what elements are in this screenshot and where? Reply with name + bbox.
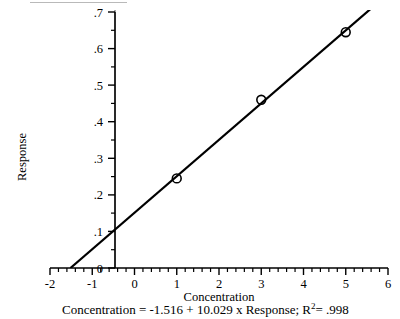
y-tick-label-3: .3	[94, 152, 103, 166]
y-tick-label-2: .2	[94, 188, 103, 202]
x-tick-label-7: 5	[343, 277, 349, 291]
equation-suffix: = .998	[316, 302, 349, 317]
y-tick-label-0: 0	[97, 262, 103, 276]
x-tick-label-3: 1	[174, 277, 180, 291]
y-tick-label-6: .6	[94, 42, 103, 56]
x-tick-label-6: 4	[300, 277, 307, 291]
chart-canvas: 0 .1 .2 .3 .4 .5 .6 .7	[0, 0, 400, 319]
calibration-chart-figure: 0 .1 .2 .3 .4 .5 .6 .7	[0, 0, 400, 319]
y-tick-label-1: .1	[94, 225, 103, 239]
x-tick-label-0: -2	[45, 277, 55, 291]
y-tick-label-4: .4	[94, 115, 104, 129]
x-tick-label-5: 3	[258, 277, 264, 291]
x-tick-label-2: 0	[131, 277, 137, 291]
y-tick-label-5: .5	[94, 79, 103, 93]
equation-prefix: Concentration = -1.516 + 10.029 x Respon…	[62, 302, 311, 317]
x-tick-label-8: 6	[385, 277, 391, 291]
x-tick-label-1: -1	[87, 277, 97, 291]
y-tick-label-7: .7	[94, 6, 103, 20]
y-axis-title: Response	[15, 133, 29, 181]
top-edge-artifact	[30, 2, 127, 3]
regression-fit-line	[70, 0, 388, 268]
svg-text:Concentration = -1.516 + 10.02: Concentration = -1.516 + 10.029 x Respon…	[62, 301, 349, 317]
regression-equation-caption: Concentration = -1.516 + 10.029 x Respon…	[62, 301, 349, 317]
x-tick-label-4: 2	[216, 277, 222, 291]
